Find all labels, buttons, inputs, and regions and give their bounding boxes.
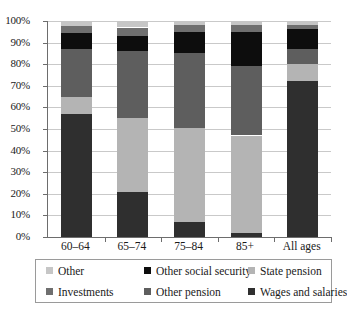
y-axis-tick bbox=[43, 64, 48, 65]
bar-segment bbox=[117, 192, 148, 237]
chart-legend: OtherOther social securityState pension … bbox=[35, 259, 332, 303]
bar-stack bbox=[231, 21, 262, 237]
bar-stack bbox=[174, 21, 205, 237]
bar-segment bbox=[174, 25, 205, 31]
bar-segment bbox=[174, 128, 205, 222]
bar-stack bbox=[61, 21, 92, 237]
bar-segment bbox=[174, 32, 205, 54]
y-axis-label: 50% bbox=[0, 123, 30, 134]
y-axis-label: 90% bbox=[0, 37, 30, 48]
bar-segment bbox=[287, 21, 318, 25]
bar-segment bbox=[287, 81, 318, 237]
bar-stack bbox=[117, 21, 148, 237]
bar-segment bbox=[61, 114, 92, 237]
legend-swatch-icon bbox=[144, 267, 151, 274]
legend-swatch-icon bbox=[46, 267, 53, 274]
bar-segment bbox=[231, 25, 262, 31]
bar-segment bbox=[117, 51, 148, 118]
legend-swatch-icon bbox=[46, 288, 53, 295]
legend-label: Investments bbox=[58, 286, 114, 298]
y-axis-tick bbox=[43, 194, 48, 195]
bar-segment bbox=[287, 29, 318, 50]
bar-stack bbox=[287, 21, 318, 237]
y-axis-label: 80% bbox=[0, 58, 30, 69]
legend-row-2: InvestmentsOther pensionWages and salari… bbox=[36, 281, 331, 302]
bar-segment bbox=[231, 32, 262, 67]
bar-segment bbox=[231, 66, 262, 135]
y-axis-tick bbox=[43, 151, 48, 152]
y-axis-tick bbox=[43, 43, 48, 44]
y-axis-label: 0% bbox=[0, 231, 30, 242]
bar-segment bbox=[117, 118, 148, 191]
legend-label: State pension bbox=[260, 265, 322, 277]
legend-label: Other bbox=[58, 265, 84, 277]
legend-item[interactable]: Other social security bbox=[144, 260, 251, 281]
legend-label: Other pension bbox=[156, 286, 221, 298]
y-axis-tick bbox=[43, 215, 48, 216]
bar-segment bbox=[174, 53, 205, 128]
bar-segment bbox=[61, 26, 92, 32]
legend-item[interactable]: Other bbox=[46, 260, 84, 281]
bar-segment bbox=[287, 49, 318, 64]
bar-segment bbox=[61, 49, 92, 97]
legend-label: Other social security bbox=[156, 265, 251, 277]
y-axis-label: 60% bbox=[0, 101, 30, 112]
legend-swatch-icon bbox=[144, 288, 151, 295]
y-axis-label: 40% bbox=[0, 145, 30, 156]
y-axis-label: 20% bbox=[0, 188, 30, 199]
y-axis-tick bbox=[43, 21, 48, 22]
legend-row-1: OtherOther social securityState pension bbox=[36, 260, 331, 281]
bar-segment bbox=[287, 25, 318, 28]
y-axis-tick bbox=[43, 86, 48, 87]
bar-segment bbox=[61, 21, 92, 26]
legend-item[interactable]: Wages and salaries bbox=[248, 281, 347, 302]
plot-area: 0%10%20%30%40%50%60%70%80%90%100% bbox=[47, 21, 331, 238]
y-axis-tick bbox=[43, 237, 48, 238]
bar-segment bbox=[117, 28, 148, 37]
y-axis-label: 30% bbox=[0, 166, 30, 177]
y-axis-tick bbox=[43, 107, 48, 108]
bar-segment bbox=[117, 21, 148, 27]
bar-segment bbox=[61, 33, 92, 49]
legend-item[interactable]: Other pension bbox=[144, 281, 221, 302]
y-axis-label: 100% bbox=[0, 15, 30, 26]
legend-swatch-icon bbox=[248, 267, 255, 274]
y-axis-label: 70% bbox=[0, 80, 30, 91]
bar-segment bbox=[231, 136, 262, 233]
legend-item[interactable]: Investments bbox=[46, 281, 114, 302]
bar-segment bbox=[174, 222, 205, 237]
x-axis-label-5: All ages bbox=[262, 240, 342, 252]
bar-segment bbox=[231, 21, 262, 25]
legend-swatch-icon bbox=[248, 288, 255, 295]
bar-segment bbox=[174, 21, 205, 25]
legend-item[interactable]: State pension bbox=[248, 260, 322, 281]
bar-segment bbox=[61, 97, 92, 114]
legend-label: Wages and salaries bbox=[260, 286, 347, 298]
y-axis-tick bbox=[43, 129, 48, 130]
bar-segment bbox=[287, 64, 318, 81]
bar-segment bbox=[231, 233, 262, 237]
bar-segment bbox=[117, 36, 148, 51]
chart-plot-region: 0%10%20%30%40%50%60%70%80%90%100% 60–646… bbox=[0, 0, 344, 250]
y-axis-tick bbox=[43, 172, 48, 173]
y-axis-label: 10% bbox=[0, 209, 30, 220]
